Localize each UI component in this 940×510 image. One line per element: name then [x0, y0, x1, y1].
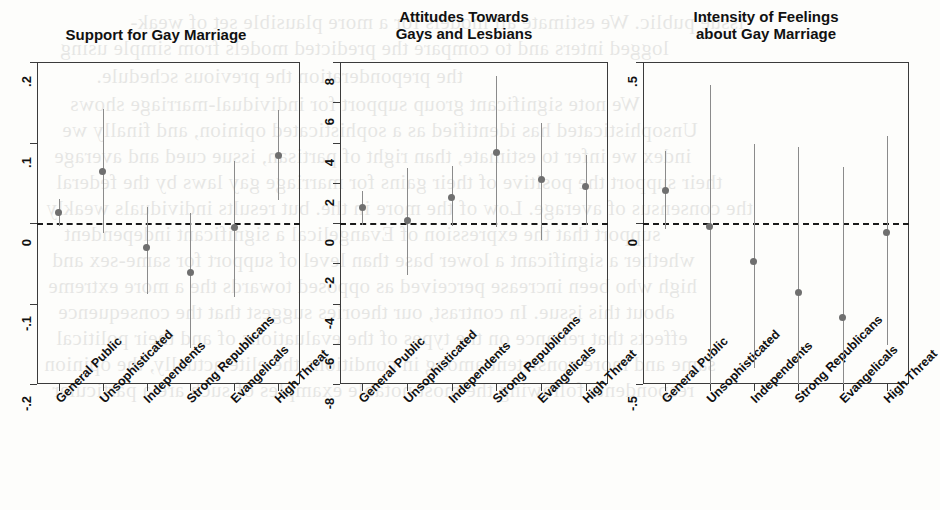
point-estimate-marker: [493, 149, 500, 156]
confidence-interval-bar: [887, 136, 888, 345]
point-estimate-marker: [795, 289, 802, 296]
point-estimate-marker: [143, 244, 150, 251]
confidence-interval-bar: [798, 147, 799, 384]
panel-intensity-of-feelings-about-gay-marriage: Intensity of Feelings about Gay Marriage…: [612, 0, 920, 510]
panel-title-3-line-1: Intensity of Feelings: [612, 8, 920, 25]
y-axis-tick-label: .5: [625, 62, 640, 102]
y-axis-tick-label: 0: [625, 223, 640, 263]
zero-reference-line: [37, 223, 300, 225]
y-axis-tick-label: -.2: [19, 384, 34, 424]
confidence-interval-bar: [843, 167, 844, 384]
point-estimate-marker: [275, 152, 282, 159]
panel-title-2-line-2: Gays and Lesbians: [308, 25, 620, 42]
y-axis-tick-label: 4: [322, 142, 337, 182]
confidence-interval-bar: [190, 213, 191, 348]
y-axis-tick-label: .1: [19, 142, 34, 182]
point-estimate-marker: [538, 176, 545, 183]
point-estimate-marker: [706, 223, 713, 230]
confidence-interval-bar: [710, 85, 711, 384]
y-axis-tick-label: 0: [322, 223, 337, 263]
y-axis-tick-label: 0: [19, 223, 34, 263]
point-estimate-marker: [231, 224, 238, 231]
y-axis-tick-label: 8: [322, 62, 337, 102]
y-axis-tick-label: -6: [322, 343, 337, 383]
point-estimate-marker: [662, 187, 669, 194]
y-axis-tick-label: 2: [322, 182, 337, 222]
y-axis-tick-label: -8: [322, 384, 337, 424]
y-axis-tick-label: -2: [322, 263, 337, 303]
zero-reference-line: [340, 223, 608, 225]
y-axis-tick-label: .2: [19, 62, 34, 102]
panel-title-3-line-2: about Gay Marriage: [612, 25, 920, 42]
panel-support-for-gay-marriage: Support for Gay Marriage -.2-.10.1.2Gene…: [0, 0, 312, 510]
confidence-interval-bar: [754, 144, 755, 368]
panel-title-1-line-1: Support for Gay Marriage: [0, 26, 312, 43]
zero-reference-line: [643, 223, 909, 225]
panel-title-2-line-1: Attitudes Towards: [308, 8, 620, 25]
y-axis-tick-label: 6: [322, 102, 337, 142]
panel-title-1: Support for Gay Marriage: [0, 26, 312, 43]
y-axis-tick-label: -.5: [625, 384, 640, 424]
panel-title-3: Intensity of Feelings about Gay Marriage: [612, 8, 920, 42]
panel-attitudes-towards-gays-and-lesbians: Attitudes Towards Gays and Lesbians -8-6…: [308, 0, 620, 510]
y-axis-tick-label: -4: [322, 303, 337, 343]
panel-title-2: Attitudes Towards Gays and Lesbians: [308, 8, 620, 42]
y-axis-tick-label: -.1: [19, 303, 34, 343]
